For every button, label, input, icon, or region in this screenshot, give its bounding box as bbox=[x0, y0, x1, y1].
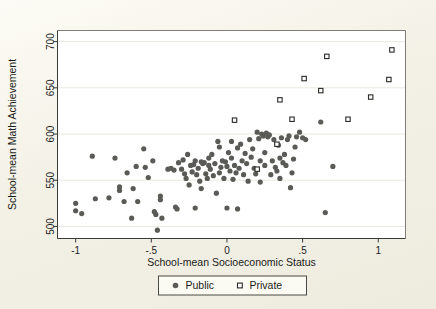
data-point-public bbox=[217, 170, 222, 175]
data-point-private bbox=[346, 117, 350, 121]
data-point-public bbox=[239, 158, 244, 163]
data-point-public bbox=[214, 191, 219, 196]
data-point-public bbox=[286, 133, 291, 138]
data-point-public bbox=[93, 196, 98, 201]
data-point-private bbox=[290, 117, 294, 121]
data-point-public bbox=[217, 144, 222, 149]
data-point-public bbox=[197, 179, 202, 184]
data-point-public bbox=[255, 130, 260, 135]
data-point-private bbox=[369, 95, 373, 99]
data-point-public bbox=[212, 161, 217, 166]
data-point-public bbox=[211, 173, 216, 178]
data-point-public bbox=[134, 164, 139, 169]
data-point-public bbox=[258, 158, 263, 163]
data-point-public bbox=[129, 216, 134, 221]
data-point-public bbox=[232, 163, 237, 168]
data-point-public bbox=[277, 155, 282, 160]
data-point-public bbox=[174, 206, 179, 211]
data-point-private bbox=[255, 167, 259, 171]
data-point-public bbox=[209, 152, 214, 157]
data-point-public bbox=[171, 167, 176, 172]
data-point-public bbox=[73, 201, 78, 206]
data-point-public bbox=[277, 176, 282, 181]
data-point-public bbox=[238, 142, 243, 147]
y-tick-label-550: 550 bbox=[45, 171, 56, 188]
data-point-public bbox=[190, 169, 195, 174]
data-point-public bbox=[247, 137, 252, 142]
data-point-public bbox=[241, 172, 246, 177]
data-point-public bbox=[179, 167, 184, 172]
legend-marker-public bbox=[173, 283, 179, 289]
y-tick-label-700: 700 bbox=[45, 33, 56, 50]
data-point-public bbox=[185, 152, 190, 157]
data-point-public bbox=[194, 172, 199, 177]
data-point-private bbox=[278, 98, 282, 102]
data-point-public bbox=[158, 197, 163, 202]
data-point-public bbox=[125, 170, 130, 175]
data-point-public bbox=[215, 139, 220, 144]
data-point-public bbox=[131, 186, 136, 191]
data-point-public bbox=[141, 146, 146, 151]
legend-box bbox=[159, 276, 307, 295]
data-point-public bbox=[249, 155, 254, 160]
data-point-public bbox=[193, 205, 198, 210]
y-tick-label-500: 500 bbox=[45, 218, 56, 235]
data-point-public bbox=[227, 168, 232, 173]
data-point-public bbox=[270, 158, 275, 163]
data-point-public bbox=[73, 208, 78, 213]
data-point-private bbox=[275, 142, 279, 146]
legend-marker-private bbox=[238, 283, 243, 288]
data-point-public bbox=[294, 134, 299, 139]
plot-area-background bbox=[58, 31, 406, 239]
data-point-private bbox=[319, 88, 323, 92]
data-point-public bbox=[117, 188, 122, 193]
data-point-public bbox=[187, 182, 192, 187]
data-point-public bbox=[323, 210, 328, 215]
data-point-public bbox=[193, 158, 198, 163]
data-point-public bbox=[236, 166, 241, 171]
data-point-public bbox=[106, 195, 111, 200]
data-point-public bbox=[202, 160, 207, 165]
data-point-public bbox=[112, 155, 117, 160]
data-point-public bbox=[303, 137, 308, 142]
data-point-public bbox=[182, 171, 187, 176]
data-point-public bbox=[233, 170, 238, 175]
data-point-public bbox=[274, 168, 279, 173]
scatter-plot-figure: 500550600650700-1-.50.51School-mean Soci… bbox=[0, 0, 436, 309]
data-point-public bbox=[79, 211, 84, 216]
y-axis-title: School-mean Math Achievement bbox=[6, 59, 18, 210]
data-point-public bbox=[291, 156, 296, 161]
data-point-public bbox=[229, 139, 234, 144]
y-tick-label-650: 650 bbox=[45, 79, 56, 96]
data-point-public bbox=[150, 158, 155, 163]
legend-label-private: Private bbox=[250, 279, 283, 291]
x-tick-label-1: 1 bbox=[375, 245, 381, 256]
data-point-public bbox=[262, 150, 267, 155]
data-point-public bbox=[221, 176, 226, 181]
data-point-public bbox=[153, 212, 158, 217]
data-point-public bbox=[143, 165, 148, 170]
data-point-public bbox=[230, 177, 235, 182]
data-point-private bbox=[390, 48, 394, 52]
data-point-public bbox=[292, 144, 297, 149]
figure-canvas: 500550600650700-1-.50.51School-mean Soci… bbox=[0, 0, 436, 309]
data-point-public bbox=[268, 172, 273, 177]
scatter-chart-svg: 500550600650700-1-.50.51School-mean Soci… bbox=[0, 0, 436, 309]
data-point-public bbox=[199, 186, 204, 191]
data-point-public bbox=[184, 176, 189, 181]
data-point-public bbox=[244, 161, 249, 166]
x-tick-label--1: -1 bbox=[71, 245, 80, 256]
data-point-public bbox=[282, 152, 287, 157]
x-axis-title: School-mean Socioeconomic Status bbox=[147, 256, 316, 268]
data-point-public bbox=[159, 216, 164, 221]
data-point-public bbox=[262, 163, 267, 168]
data-point-public bbox=[121, 199, 126, 204]
data-point-private bbox=[232, 118, 236, 122]
data-point-public bbox=[224, 164, 229, 169]
x-tick-label--.5: -.5 bbox=[145, 245, 157, 256]
data-point-public bbox=[135, 199, 140, 204]
data-point-public bbox=[243, 151, 248, 156]
data-point-public bbox=[226, 150, 231, 155]
data-point-public bbox=[256, 136, 261, 141]
data-point-public bbox=[218, 165, 223, 170]
